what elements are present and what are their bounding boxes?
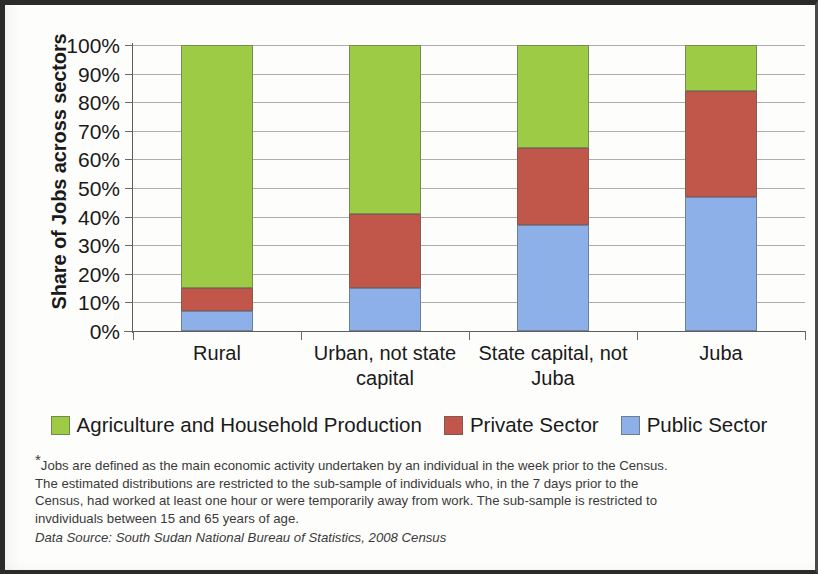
x-tick-mark	[637, 331, 638, 340]
legend-label: Agriculture and Household Production	[77, 413, 422, 437]
legend-swatch-icon	[444, 416, 463, 435]
y-axis-tick-labels: 100%90%80%70%60%50%40%30%20%10%0%	[35, 33, 120, 343]
bar-segment	[517, 45, 589, 148]
footnote-line: *Jobs are defined as the main economic a…	[35, 457, 780, 475]
legend-item[interactable]: Agriculture and Household Production	[51, 413, 422, 437]
x-axis-label: State capital, not Juba	[469, 341, 637, 391]
bar-segment	[685, 197, 757, 331]
x-axis-category-labels: RuralUrban, not state capitalState capit…	[133, 341, 805, 411]
y-tick-label: 100%	[35, 35, 120, 56]
bar-segment	[181, 311, 253, 331]
bar-stack	[181, 45, 253, 331]
bar-segment	[181, 288, 253, 311]
y-tick-label: 80%	[35, 92, 120, 113]
y-tick-label: 50%	[35, 178, 120, 199]
legend-label: Private Sector	[470, 413, 599, 437]
y-tick-mark	[125, 274, 133, 275]
bar-segment	[349, 45, 421, 214]
bar-segment	[349, 214, 421, 288]
legend-swatch-icon	[51, 416, 70, 435]
x-axis-label: Rural	[133, 341, 301, 366]
chart-legend: Agriculture and Household ProductionPriv…	[5, 413, 813, 437]
footnote-line: The estimated distributions are restrict…	[35, 475, 780, 493]
y-tick-mark	[125, 131, 133, 132]
chart-canvas: Share of Jobs across sectors 100%90%80%7…	[5, 5, 813, 410]
y-tick-mark	[125, 159, 133, 160]
y-tick-label: 40%	[35, 206, 120, 227]
y-tick-label: 90%	[35, 63, 120, 84]
x-tick-mark	[469, 331, 470, 340]
bars-layer	[133, 45, 805, 331]
figure-container: Share of Jobs across sectors 100%90%80%7…	[0, 0, 818, 574]
bar-stack	[685, 45, 757, 331]
x-axis-label: Juba	[637, 341, 805, 366]
legend-swatch-icon	[621, 416, 640, 435]
y-tick-mark	[125, 217, 133, 218]
y-tick-label: 60%	[35, 149, 120, 170]
bar-segment	[181, 45, 253, 288]
legend-label: Public Sector	[647, 413, 768, 437]
bar-segment	[685, 91, 757, 197]
y-tick-mark	[125, 245, 133, 246]
footnote-line: Census, had worked at least one hour or …	[35, 492, 780, 510]
y-tick-mark	[125, 74, 133, 75]
y-tick-label: 20%	[35, 263, 120, 284]
footnote-text: Jobs are defined as the main economic ac…	[41, 458, 668, 473]
bar-segment	[685, 45, 757, 91]
bar-stack	[517, 45, 589, 331]
y-tick-mark	[125, 331, 133, 332]
y-tick-label: 30%	[35, 235, 120, 256]
x-tick-mark	[133, 331, 134, 340]
bar-segment	[517, 225, 589, 331]
y-tick-mark	[125, 102, 133, 103]
x-tick-mark	[301, 331, 302, 340]
legend-item[interactable]: Private Sector	[444, 413, 599, 437]
y-tick-label: 10%	[35, 292, 120, 313]
bar-segment	[517, 148, 589, 225]
bar-segment	[349, 288, 421, 331]
legend-item[interactable]: Public Sector	[621, 413, 768, 437]
footnote-block: *Jobs are defined as the main economic a…	[35, 457, 780, 547]
plot-area	[133, 45, 805, 331]
y-tick-mark	[125, 188, 133, 189]
y-tick-label: 70%	[35, 120, 120, 141]
x-axis-line	[124, 331, 805, 332]
y-tick-label: 0%	[35, 321, 120, 342]
y-tick-mark	[125, 45, 133, 46]
data-source-line: Data Source: South Sudan National Bureau…	[35, 529, 780, 547]
y-tick-mark	[125, 302, 133, 303]
bar-stack	[349, 45, 421, 331]
x-axis-label: Urban, not state capital	[301, 341, 469, 391]
x-tick-mark	[805, 331, 806, 340]
footnote-line: invdividuals between 15 and 65 years of …	[35, 510, 780, 528]
